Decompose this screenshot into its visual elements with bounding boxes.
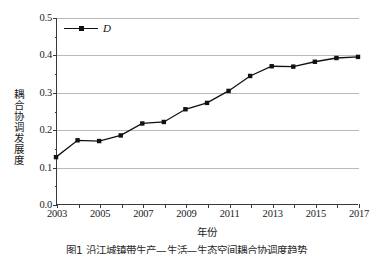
x-axis-tick-label: 2013: [263, 209, 283, 220]
x-axis-tick-label: 2003: [47, 209, 67, 220]
data-point-marker: [140, 121, 144, 125]
figure-caption: 图1 沿江城镇带生产—生活—生态空间耦合协调度趋势: [0, 244, 373, 254]
data-point-marker: [54, 155, 58, 159]
x-axis-tick-label: 2009: [176, 209, 196, 220]
legend: D: [64, 22, 111, 34]
data-point-marker: [313, 60, 317, 64]
data-point-marker: [291, 64, 295, 68]
x-axis-title: 年份: [56, 227, 358, 238]
figure-container: 耦合协调发展度 0.50.40.30.20.10.020032005200720…: [0, 0, 373, 254]
y-axis-tick-label: 0.4: [39, 50, 52, 61]
data-point-marker: [226, 89, 230, 93]
y-axis-tick-label: 0.2: [39, 125, 52, 136]
y-axis-tick-label: 0.3: [39, 88, 52, 99]
data-point-marker: [356, 55, 360, 59]
x-axis-tick-label: 2011: [220, 209, 240, 220]
data-point-marker: [334, 56, 338, 60]
data-point-marker: [183, 107, 187, 111]
x-axis-tick-label: 2017: [349, 209, 369, 220]
data-point-marker: [162, 120, 166, 124]
data-point-marker: [205, 101, 209, 105]
legend-line-swatch: [64, 28, 98, 29]
data-point-marker: [97, 139, 101, 143]
x-axis-tick-label: 2005: [90, 209, 110, 220]
y-axis-tick-label: 0.1: [39, 162, 52, 173]
data-point-marker: [270, 64, 274, 68]
y-axis-tick-label: 0.5: [39, 13, 52, 24]
series-D: [56, 18, 358, 205]
y-axis-title: 耦合协调发展度: [9, 89, 23, 166]
data-point-marker: [248, 74, 252, 78]
data-point-marker: [75, 138, 79, 142]
legend-marker-square: [79, 26, 84, 31]
data-point-marker: [119, 133, 123, 137]
x-axis-tick-label: 2015: [306, 209, 326, 220]
legend-label-D: D: [103, 22, 111, 34]
x-axis-tick-label: 2007: [133, 209, 153, 220]
